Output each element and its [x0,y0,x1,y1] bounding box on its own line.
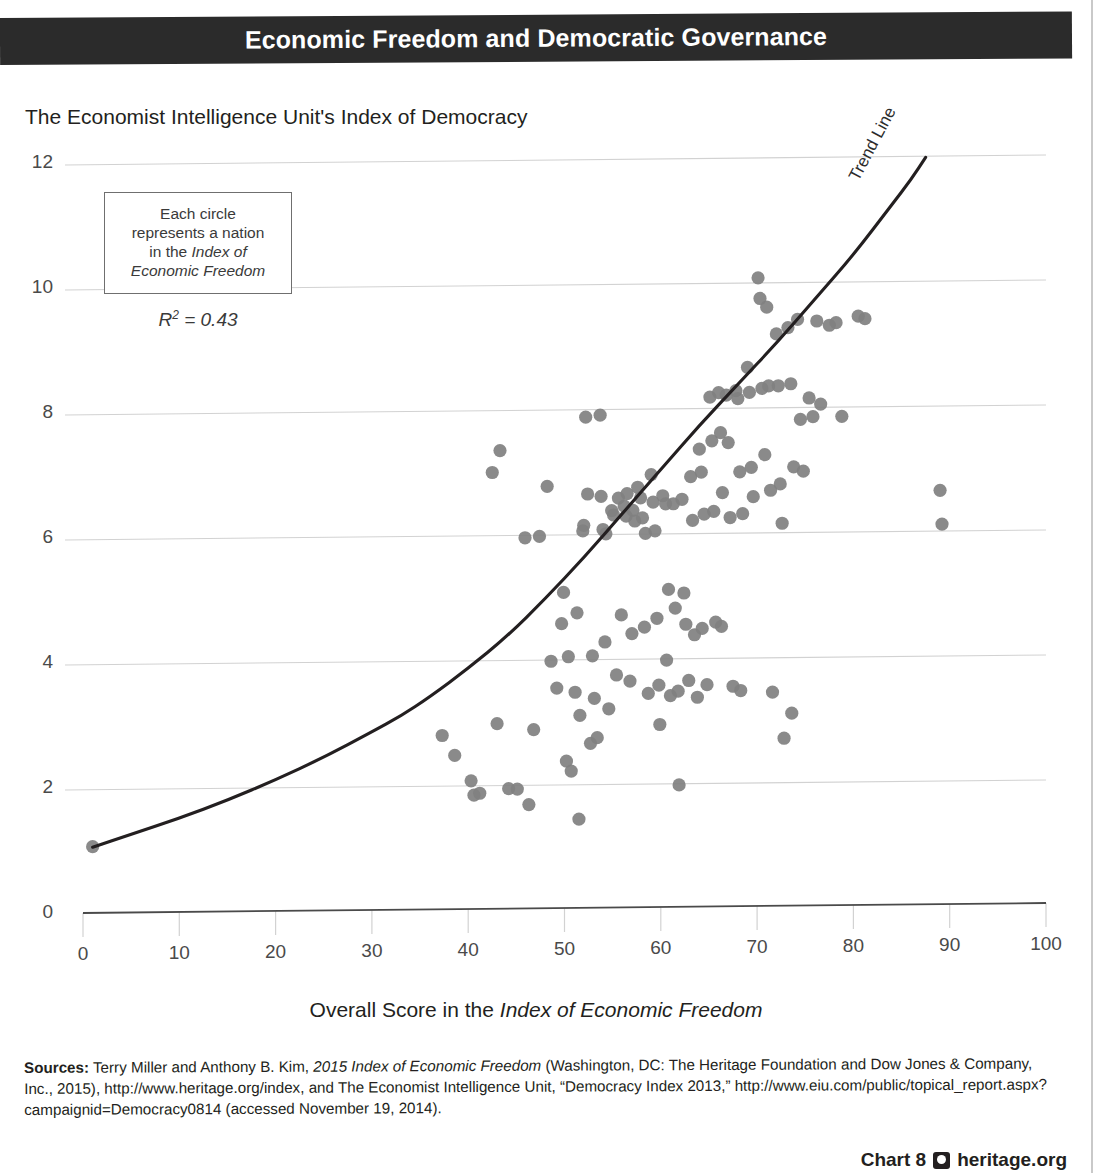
y-tick-label-0: 0 [11,901,53,923]
data-point [935,517,948,530]
x-tick-label-70: 70 [727,936,787,958]
data-point [522,798,535,811]
scatter-points [86,271,949,853]
callout-line-3-plain: in the [149,243,191,260]
x-axis-title-italic: Index of Economic Freedom [500,998,763,1021]
data-point [486,466,499,479]
data-point [784,377,797,390]
data-point [490,717,503,730]
data-point [715,620,728,633]
data-point [691,691,704,704]
x-tick-label-30: 30 [342,940,402,962]
data-point [557,586,570,599]
sources-note: Sources: Terry Miller and Anthony B. Kim… [24,1053,1064,1120]
data-point [693,443,706,456]
data-point [785,707,798,720]
data-point [933,484,946,497]
callout-line-1: Each circle [160,205,236,224]
data-point [448,749,461,762]
data-point [707,505,720,518]
callout-line-3: in the Index of [149,243,246,262]
chart-page: Economic Freedom and Democratic Governan… [0,0,1093,1173]
x-tick-label-90: 90 [920,934,980,956]
data-point [806,410,819,423]
data-point [660,653,673,666]
sources-text-a: Terry Miller and Anthony B. Kim, [89,1058,313,1076]
gridline-y-12 [65,155,1046,165]
data-point [695,466,708,479]
data-point [568,686,581,699]
data-point [758,448,771,461]
data-point [591,731,604,744]
data-point [669,602,682,615]
data-point [858,312,871,325]
callout-box: Each circle represents a nation in the I… [104,192,292,294]
data-point [518,531,531,544]
data-point [772,379,785,392]
data-point [550,681,563,694]
gridline-y-6 [65,530,1046,540]
data-point [734,684,747,697]
data-point [814,397,827,410]
sources-text-italic: 2015 Index of Economic Freedom [313,1057,541,1075]
gridline-y-2 [65,780,1046,790]
data-point [598,635,611,648]
data-point [653,718,666,731]
x-tick-label-20: 20 [246,941,306,963]
data-point [436,729,449,742]
data-point [594,409,607,422]
callout-line-2: represents a nation [132,224,265,243]
chart-number: Chart 8 [861,1149,926,1171]
data-point [722,436,735,449]
heritage-site: heritage.org [957,1149,1067,1171]
data-point [766,685,779,698]
data-point [511,783,524,796]
data-point [747,490,760,503]
data-point [672,685,685,698]
sources-label: Sources: [24,1059,89,1076]
data-point [751,271,764,284]
chart-footer: Chart 8 heritage.org [861,1149,1067,1171]
data-point [777,732,790,745]
data-point [638,621,651,634]
data-point [662,583,675,596]
data-point [648,524,661,537]
data-point [731,392,744,405]
data-point [774,477,787,490]
data-point [642,687,655,700]
data-point [527,723,540,736]
data-point [577,519,590,532]
data-point [745,461,758,474]
data-point [473,787,486,800]
callout-line-3-italic: Index of [192,243,247,260]
x-tick-label-40: 40 [438,939,498,961]
r-squared-symbol: R [158,309,172,330]
data-point [829,316,842,329]
y-tick-label-10: 10 [11,276,53,298]
x-axis-title-plain: Overall Score in the [310,998,500,1021]
data-point [736,507,749,520]
data-point [625,627,638,640]
data-point [835,410,848,423]
data-point [544,655,557,668]
data-point [541,480,554,493]
y-tick-label-4: 4 [11,651,53,673]
data-point [565,764,578,777]
data-point [570,606,583,619]
data-point [716,486,729,499]
x-tick-label-50: 50 [535,938,595,960]
data-point [776,517,789,530]
data-point [677,586,690,599]
y-tick-label-2: 2 [11,776,53,798]
data-point [686,514,699,527]
r-squared-value: = 0.43 [179,309,238,330]
data-point [797,465,810,478]
data-point [588,692,601,705]
data-point [586,649,599,662]
data-point [555,617,568,630]
data-point [572,813,585,826]
data-point [650,612,663,625]
x-axis-title: Overall Score in the Index of Economic F… [0,998,1072,1022]
data-point [700,678,713,691]
data-point [743,386,756,399]
